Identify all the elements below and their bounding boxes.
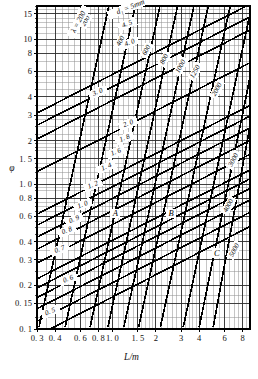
d1-curve-label: 1. 4 — [96, 160, 117, 175]
x-tick-label: 0. 3 — [31, 333, 44, 343]
y-tick-label: 3 — [28, 110, 32, 120]
nomogram-svg: 1510864321. 51. 00. 80. 60. 40. 30. 20. … — [0, 0, 258, 379]
zone-label: A — [112, 208, 119, 218]
y-tick-label: 10 — [24, 34, 33, 44]
x-tick-label: 1. 5 — [131, 333, 144, 343]
zone-label: B — [168, 208, 173, 218]
axis-tick-labels: 1510864321. 51. 00. 80. 60. 40. 30. 20. … — [15, 9, 245, 343]
y-tick-label: 0. 6 — [19, 211, 32, 221]
y-tick-label: 0. 3 — [19, 255, 32, 265]
y-tick-label: 15 — [24, 9, 33, 19]
y-tick-label: 8 — [28, 48, 32, 58]
lambda-curve — [124, 4, 195, 327]
y-tick-label: 0. 2 — [19, 280, 32, 290]
x-tick-label: 2 — [154, 333, 158, 343]
y-tick-label: 4 — [28, 92, 33, 102]
x-tick-label: 3 — [179, 333, 183, 343]
d1-curve-label: 0. 6 — [58, 272, 79, 287]
x-tick-label: 0. 4 — [49, 333, 63, 343]
lambda-curve-label: 1000 — [172, 56, 188, 77]
d1-curve-label: 2. 0 — [118, 116, 139, 131]
x-tick-label: 6 — [222, 333, 226, 343]
lambda-curve — [160, 4, 230, 327]
y-tick-label: 0. 8 — [19, 193, 32, 203]
y-tick-label: 2 — [28, 136, 32, 146]
y-tick-label: 6 — [28, 66, 32, 76]
nomogram-figure: 1510864321. 51. 00. 80. 60. 40. 30. 20. … — [0, 0, 258, 379]
d1-curve-label: 0. 7 — [49, 242, 70, 257]
x-tick-label: 1. 0 — [106, 333, 119, 343]
lambda-curve — [183, 4, 252, 327]
x-tick-label: 8 — [240, 333, 244, 343]
d1-curve-label: 4. 5 — [117, 17, 138, 32]
y-axis-title: φ — [9, 163, 14, 173]
y-tick-label: 0. 15 — [15, 298, 32, 308]
x-tick-label: 0. 6 — [74, 333, 87, 343]
y-tick-label: 1. 0 — [19, 179, 32, 189]
y-tick-label: 0. 4 — [19, 237, 33, 247]
zone-label: C — [214, 248, 220, 258]
x-tick-label: 0. 8 — [92, 333, 105, 343]
x-tick-label: 4 — [197, 333, 202, 343]
x-axis-title: L/m — [123, 352, 139, 362]
y-tick-label: 1. 5 — [19, 154, 32, 164]
